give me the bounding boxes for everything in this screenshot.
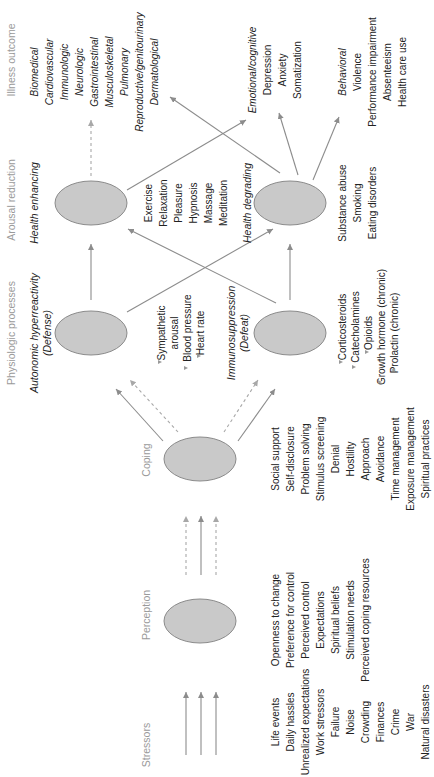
biomedical-item: Immunologic: [59, 44, 70, 101]
defeat-item: Opioids: [363, 316, 374, 350]
health-enhancing-ellipse: [55, 181, 127, 225]
enhancing-item: Hypnosis: [188, 182, 199, 223]
coping-item: Social support: [270, 427, 281, 491]
defense-title: Autonomic hyperreactivity: [28, 272, 40, 394]
perception-list: Openness to change Preference for contro…: [270, 558, 371, 681]
stressor-item: Life events: [270, 698, 281, 746]
biomedical-item: Dermatological: [149, 38, 160, 105]
stressor-item: Work stressors: [315, 689, 326, 756]
perception-item: Stimulation needs: [345, 580, 356, 660]
degrading-item: Eating disorders: [367, 167, 378, 239]
defeat-item: Catecholamines: [350, 291, 361, 363]
stressor-item: Noise: [345, 709, 356, 735]
perception-item: Openness to change: [270, 573, 281, 666]
stressor-item: Unrealized expectations: [300, 669, 311, 776]
coping-item: Stimulus screening: [315, 417, 326, 501]
coping-item: Time management: [390, 417, 401, 500]
defeat-title: Immunosuppression: [225, 286, 237, 381]
degrading-item: Substance abuse: [337, 164, 348, 242]
enhancing-item: Relaxation: [158, 179, 169, 226]
defense-ellipse: [55, 311, 127, 355]
degrading-item: Smoking: [352, 184, 363, 223]
coping-item: Avoidance: [375, 435, 386, 482]
arrow-degrading-behavioral: [313, 117, 339, 180]
perception-item: Perceived coping resources: [360, 558, 371, 681]
arrow-degrading-emotional: [279, 113, 298, 175]
enhancing-item: Meditation: [218, 180, 229, 226]
header-arousal: Arousal reduction: [5, 159, 17, 241]
enhancing-item: Exercise: [143, 183, 154, 222]
defeat-item: Prolactin (chronic): [389, 293, 400, 374]
header-physiologic: Physiologic processes: [5, 281, 17, 385]
enhancing-item: Pleasure: [173, 183, 184, 223]
perception-item: Preference for control: [285, 572, 296, 668]
health-degrading-ellipse: [254, 181, 326, 225]
stressor-item: Crowding: [360, 701, 371, 743]
header-illness: Illness outcome: [5, 23, 17, 96]
emotional-item: Somatization: [292, 41, 303, 99]
behavioral-item: Absenteeism: [382, 43, 393, 101]
biomedical-title: Biomedical: [29, 47, 40, 97]
coping-item: Denial: [330, 445, 341, 473]
arrow-degrading-biomedical: [170, 97, 280, 173]
coping-item: Approach: [360, 438, 371, 481]
biomedical-group: Biomedical Cardiovascular Immunologic Ne…: [29, 11, 160, 132]
header-coping: Coping: [140, 443, 152, 476]
biomedical-item: Neurologic: [74, 48, 85, 96]
coping-item: Problem solving: [300, 423, 311, 494]
emotional-group: Emotional/cognitive Depression Anxiety S…: [247, 26, 303, 113]
coping-list: Social support Self-disclosure Problem s…: [270, 407, 431, 511]
coping-item: Exposure management: [405, 407, 416, 511]
coping-item: Spiritual practices: [420, 420, 431, 499]
stress-illness-model-diagram: Stressors Perception Coping Physiologic …: [0, 0, 434, 777]
stressor-item: Finances: [375, 702, 386, 743]
arrow-coping-defense-solid: [116, 389, 163, 441]
defense-item: arousal: [169, 317, 180, 350]
biomedical-item: Cardiovascular: [44, 38, 55, 105]
biomedical-item: Pulmonary: [119, 47, 130, 96]
coping-ellipse: [164, 437, 236, 481]
defeat-subtitle: (Defeat): [238, 314, 250, 352]
behavioral-item: Violence: [352, 52, 363, 91]
defense-item: Sympathetic: [156, 305, 167, 360]
arrow-coping-defeat-dashed: [224, 380, 258, 432]
arrow-coping-defense-dashed: [130, 380, 178, 432]
enhancing-item: Massage: [203, 182, 214, 223]
stressor-item: Crime: [390, 708, 401, 735]
defeat-ellipse: [254, 311, 326, 355]
stressor-item: Failure: [330, 706, 341, 737]
increase-arrow-icon: [184, 366, 188, 370]
defense-subtitle: (Defense): [41, 310, 53, 356]
emotional-title: Emotional/cognitive: [247, 26, 258, 113]
biomedical-item: Gastrointestinal: [89, 36, 100, 106]
increase-arrow-icon: [352, 365, 356, 369]
emotional-item: Anxiety: [277, 54, 288, 87]
stressor-item: Daily hassles: [285, 693, 296, 752]
behavioral-title: Behavioral: [337, 48, 348, 96]
behavioral-group: Behavioral Violence Performance impairme…: [337, 17, 408, 127]
stressors-list: Life events Daily hassles Unrealized exp…: [270, 669, 431, 776]
behavioral-item: Health care use: [397, 37, 408, 107]
stressor-item: War: [405, 712, 416, 731]
defense-item: Heart rate: [195, 310, 206, 355]
emotional-item: Depression: [262, 45, 273, 96]
defense-item: Blood pressure: [182, 294, 193, 362]
biomedical-item: Musculoskeletal: [104, 36, 115, 108]
biomedical-item: Reproductive/genitourinary: [134, 11, 145, 132]
perception-item: Perceived control: [300, 581, 311, 658]
column-headers: Stressors Perception Coping Physiologic …: [5, 23, 152, 767]
enhancing-title: Health enhancing: [28, 162, 40, 244]
perception-item: Expectations: [315, 591, 326, 648]
coping-item: Self-disclosure: [285, 426, 296, 492]
perception-item: Spiritual beliefs: [330, 586, 341, 654]
perception-ellipse: [164, 599, 236, 643]
defeat-item: Growth hormone (chronic): [376, 269, 387, 385]
defeat-item: Corticosteroids: [337, 294, 348, 361]
header-perception: Perception: [140, 590, 152, 640]
degrading-title: Health degrading: [241, 163, 253, 243]
stressor-item: Natural disasters: [420, 684, 431, 759]
behavioral-item: Performance impairment: [367, 17, 378, 127]
header-stressors: Stressors: [140, 723, 152, 767]
coping-item: Hostility: [345, 441, 356, 476]
